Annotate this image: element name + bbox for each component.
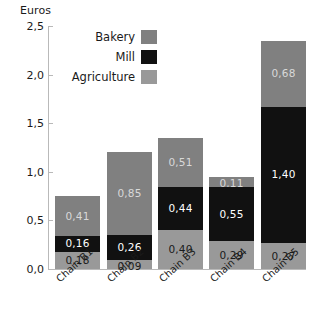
legend-swatch-mill [141,50,157,64]
bar-chain-b3: 0,510,440,40 [158,138,203,269]
y-tick-label: 2,0 [0,68,44,81]
bar-segment-mill: 0,16 [55,236,100,252]
bar-segment-value: 0,55 [219,209,243,220]
legend-item-mill: Mill [52,48,157,66]
bar-segment-mill: 0,55 [209,187,254,240]
y-tick-label: 1,0 [0,165,44,178]
bar-chain-b2: 0,850,260,09 [107,152,152,269]
bar-segment-bakery: 0,51 [158,138,203,188]
bar-segment-mill: 0,44 [158,187,203,230]
bar-segment-value: 1,40 [271,169,295,180]
bar-segment-value: 0,85 [117,188,141,199]
chart-legend: Bakery Mill Agriculture [52,28,157,88]
bar-segment-bakery: 0,85 [107,152,152,235]
legend-swatch-bakery [141,30,157,44]
bar-segment-value: 0,68 [271,68,295,79]
bar-segment-value: 0,51 [168,157,192,168]
y-tick-label: 1,5 [0,117,44,130]
stacked-bar-chart: Euros 0,00,51,01,52,02,5 0,410,160,180,8… [0,0,323,331]
bar-segment-bakery: 0,68 [261,41,306,107]
y-tick-label: 0,5 [0,214,44,227]
legend-swatch-agriculture [141,70,157,84]
legend-item-bakery: Bakery [52,28,157,46]
bar-chain-b5: 0,681,400,27 [261,41,306,269]
bar-segment-bakery: 0,41 [55,196,100,236]
bar-segment-bakery: 0,11 [209,177,254,188]
legend-label-mill: Mill [115,50,135,64]
y-tick-label: 2,5 [0,20,44,33]
bar-segment-value: 0,41 [65,211,89,222]
bar-segment-value: 0,44 [168,203,192,214]
legend-label-agriculture: Agriculture [72,70,135,84]
y-tick-mark [48,269,53,270]
legend-item-agriculture: Agriculture [52,68,157,86]
bar-segment-mill: 1,40 [261,107,306,243]
y-axis-title: Euros [20,4,51,17]
legend-label-bakery: Bakery [95,30,135,44]
y-tick-label: 0,0 [0,263,44,276]
